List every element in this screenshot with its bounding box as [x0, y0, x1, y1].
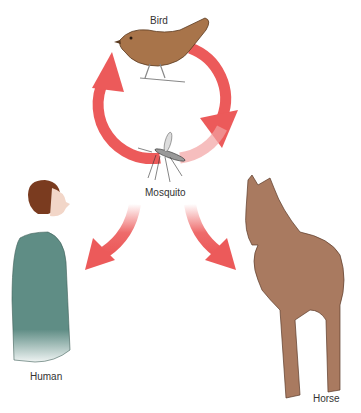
human-illustration: [12, 180, 70, 362]
mosquito-label: Mosquito: [145, 187, 186, 198]
arrow-to-human: [85, 204, 135, 270]
horse-illustration: [246, 175, 344, 398]
bird-label: Bird: [150, 15, 168, 26]
human-label: Human: [30, 371, 62, 382]
cycle-arrow-right: [180, 48, 238, 158]
diagram-canvas: [0, 0, 361, 413]
arrow-to-horse: [190, 204, 236, 270]
horse-label: Horse: [313, 393, 340, 404]
cycle-arrow-left: [92, 52, 160, 159]
